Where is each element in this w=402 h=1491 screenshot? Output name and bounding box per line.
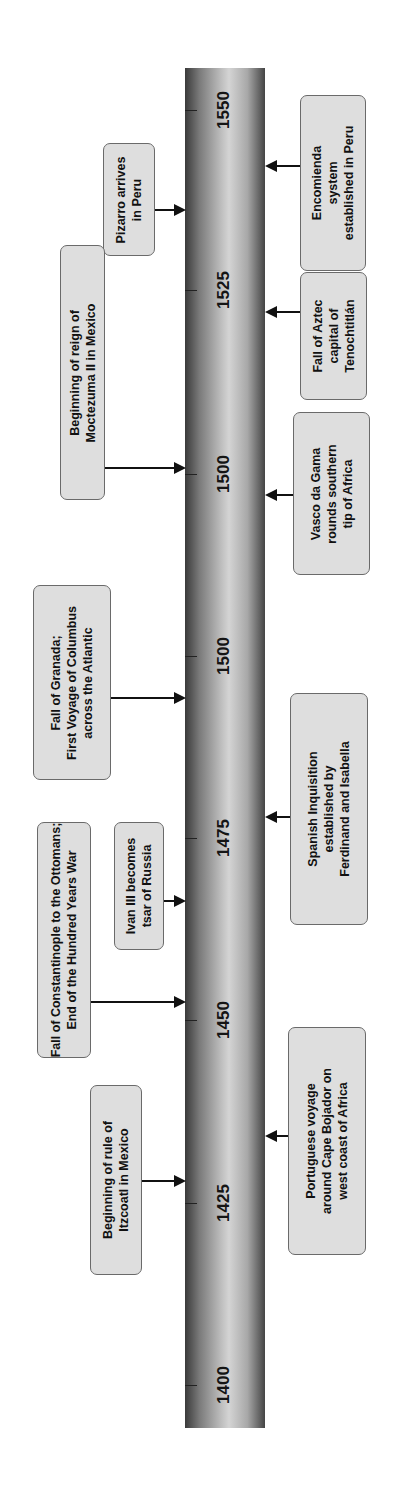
event-box-moctezuma: Beginning of reign of Moctezuma II in Me… bbox=[60, 245, 105, 500]
tick-1475 bbox=[185, 838, 197, 839]
tick-1450 bbox=[185, 1020, 197, 1021]
event-box-granada-columbus: Fall of Granada; First Voyage of Columbu… bbox=[33, 585, 111, 780]
event-label-encomienda: Encomienda system established in Peru bbox=[309, 126, 357, 241]
tick-1425 bbox=[185, 1203, 197, 1204]
tick-1500a bbox=[185, 656, 197, 657]
arrow-icon bbox=[174, 895, 186, 907]
connector-encomienda bbox=[276, 165, 300, 167]
connector-portuguese-voyage bbox=[276, 1135, 288, 1137]
arrow-icon bbox=[174, 204, 186, 216]
connector-aztec bbox=[276, 311, 300, 313]
event-box-ivan: Ivan III becomes tsar of Russia bbox=[114, 822, 164, 950]
connector-pizarro bbox=[155, 209, 175, 211]
event-label-ivan: Ivan III becomes tsar of Russia bbox=[123, 838, 155, 935]
tick-label-1550: 1550 bbox=[214, 85, 234, 135]
arrow-icon bbox=[174, 692, 186, 704]
event-box-pizarro: Pizarro arrives in Peru bbox=[103, 143, 155, 256]
connector-constantinople bbox=[91, 1001, 175, 1003]
tick-1500b bbox=[185, 474, 197, 475]
arrow-icon bbox=[174, 1175, 186, 1187]
tick-1525 bbox=[185, 290, 197, 291]
arrow-icon bbox=[174, 462, 186, 474]
event-label-itzcoatl: Beginning of rule of Itzcoatl in Mexico bbox=[100, 1121, 132, 1239]
tick-label-1500b: 1500 bbox=[214, 449, 234, 499]
timeline-bar: 1550 1525 1500 1500 1475 1450 1425 1400 bbox=[185, 68, 265, 1428]
event-label-granada-columbus: Fall of Granada; First Voyage of Columbu… bbox=[48, 606, 96, 760]
tick-1400 bbox=[185, 1385, 197, 1386]
event-label-spanish-inquisition: Spanish Inquisition established by Ferdi… bbox=[305, 741, 353, 876]
connector-vasco-da-gama bbox=[276, 494, 293, 496]
event-label-constantinople: Fall of Constantinople to the Ottomans; … bbox=[48, 823, 80, 1058]
event-box-portuguese-voyage: Portuguese voyage around Cape Bojador on… bbox=[288, 1027, 366, 1255]
event-box-spanish-inquisition: Spanish Inquisition established by Ferdi… bbox=[290, 693, 368, 925]
connector-spanish-inquisition bbox=[276, 816, 290, 818]
event-box-itzcoatl: Beginning of rule of Itzcoatl in Mexico bbox=[90, 1085, 142, 1275]
tick-label-1500a: 1500 bbox=[214, 631, 234, 681]
event-label-moctezuma: Beginning of reign of Moctezuma II in Me… bbox=[67, 303, 99, 442]
connector-moctezuma bbox=[105, 467, 175, 469]
event-label-portuguese-voyage: Portuguese voyage around Cape Bojador on… bbox=[303, 1068, 351, 1214]
event-box-constantinople: Fall of Constantinople to the Ottomans; … bbox=[37, 822, 91, 1058]
event-box-aztec: Fall of Aztec capital of Tenochtitlán bbox=[300, 272, 367, 400]
tick-1550 bbox=[185, 110, 197, 111]
event-box-encomienda: Encomienda system established in Peru bbox=[300, 95, 366, 271]
arrow-icon bbox=[174, 996, 186, 1008]
connector-itzcoatl bbox=[142, 1180, 175, 1182]
event-box-vasco-da-gama: Vasco da Gama rounds southern tip of Afr… bbox=[293, 412, 370, 575]
tick-label-1450: 1450 bbox=[214, 995, 234, 1045]
event-label-pizarro: Pizarro arrives in Peru bbox=[113, 156, 145, 243]
tick-label-1400: 1400 bbox=[214, 1360, 234, 1410]
event-label-vasco-da-gama: Vasco da Gama rounds southern tip of Afr… bbox=[308, 444, 356, 543]
tick-label-1425: 1425 bbox=[214, 1178, 234, 1228]
tick-label-1525: 1525 bbox=[214, 265, 234, 315]
connector-granada-columbus bbox=[111, 697, 175, 699]
event-label-aztec: Fall of Aztec capital of Tenochtitlán bbox=[310, 299, 358, 372]
tick-label-1475: 1475 bbox=[214, 813, 234, 863]
